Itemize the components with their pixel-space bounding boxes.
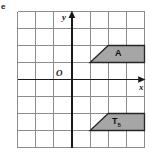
shape-t5-label-subscript: 5 — [118, 122, 121, 128]
shape-t5-label: T5 — [112, 116, 121, 128]
x-axis-label: x — [139, 82, 144, 92]
coordinate-grid-figure: e — [0, 0, 154, 156]
shape-a-label: A — [115, 48, 122, 58]
figure-text-layer: y x O A T5 — [0, 0, 154, 156]
y-axis-label: y — [62, 12, 66, 22]
origin-label: O — [56, 68, 63, 78]
